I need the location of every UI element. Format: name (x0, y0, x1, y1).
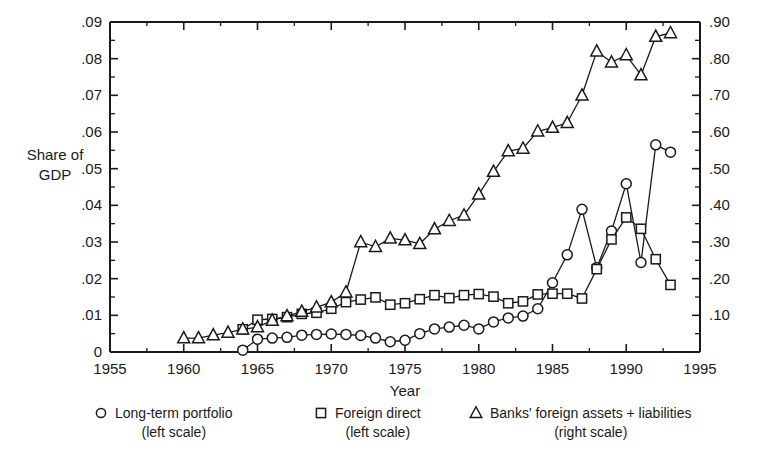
data-point-square (386, 300, 395, 309)
x-tick-label: 1965 (241, 360, 274, 377)
data-point-circle (577, 204, 587, 214)
data-point-circle (533, 304, 543, 314)
legend-marker-square (316, 408, 325, 417)
legend-label-primary: Long-term portfolio (115, 405, 233, 421)
data-point-square (504, 299, 513, 308)
data-point-circle (651, 140, 661, 150)
data-point-square (415, 295, 424, 304)
legend-label-primary: Banks' foreign assets + liabilities (490, 405, 692, 421)
data-point-square (445, 294, 454, 303)
data-point-square (666, 280, 675, 289)
data-point-circle (444, 322, 454, 332)
data-point-square (636, 224, 645, 233)
y-right-tick-label: .80 (709, 50, 730, 67)
y-axis-left-title-line2: GDP (39, 166, 72, 183)
y-left-tick-label: .04 (81, 196, 102, 213)
y-right-tick-label: .60 (709, 123, 730, 140)
y-axis-left-title-line1: Share of (27, 146, 85, 163)
data-point-square (577, 294, 586, 303)
y-left-tick-label: .08 (81, 50, 102, 67)
data-point-square (518, 297, 527, 306)
y-right-tick-label: .50 (709, 160, 730, 177)
data-point-circle (253, 334, 263, 344)
data-point-circle (341, 329, 351, 339)
y-right-tick-label: .40 (709, 196, 730, 213)
x-tick-label: 1995 (683, 360, 716, 377)
data-point-circle (238, 345, 248, 355)
x-tick-label: 1975 (388, 360, 421, 377)
y-left-tick-label: .01 (81, 306, 102, 323)
legend-label-secondary: (left scale) (141, 424, 206, 440)
legend-marker-circle (96, 408, 105, 417)
data-point-square (356, 295, 365, 304)
legend-label-secondary: (left scale) (346, 424, 411, 440)
data-point-square (548, 289, 557, 298)
x-axis-title: Year (390, 382, 420, 399)
y-left-tick-label: .06 (81, 123, 102, 140)
x-tick-label: 1985 (536, 360, 569, 377)
data-point-square (592, 265, 601, 274)
data-point-circle (385, 337, 395, 347)
x-tick-label: 1970 (315, 360, 348, 377)
chart-canvas: 195519601965197019751980198519901995 0.0… (0, 0, 758, 450)
data-point-square (651, 255, 660, 264)
x-tick-label: 1990 (610, 360, 643, 377)
y-left-tick-label: .09 (81, 13, 102, 30)
data-point-circle (312, 329, 322, 339)
data-point-circle (666, 147, 676, 157)
x-tick-label: 1955 (93, 360, 126, 377)
y-left-tick-label: .02 (81, 270, 102, 287)
y-right-tick-label: .10 (709, 306, 730, 323)
y-right-tick-label: .70 (709, 86, 730, 103)
data-point-circle (636, 258, 646, 268)
y-left-tick-label: .03 (81, 233, 102, 250)
data-point-square (563, 289, 572, 298)
data-point-circle (326, 329, 336, 339)
data-point-square (622, 213, 631, 222)
data-point-circle (621, 179, 631, 189)
y-right-tick-label: .90 (709, 13, 730, 30)
data-point-square (459, 291, 468, 300)
data-point-circle (474, 324, 484, 334)
y-left-tick-label: 0 (94, 343, 102, 360)
data-point-square (371, 293, 380, 302)
y-right-tick-label: .20 (709, 270, 730, 287)
data-point-circle (371, 333, 381, 343)
data-point-circle (267, 333, 277, 343)
data-point-square (341, 298, 350, 307)
y-left-tick-label: .07 (81, 86, 102, 103)
legend-label-secondary: (right scale) (554, 424, 627, 440)
data-point-square (533, 290, 542, 299)
y-right-tick-label: .30 (709, 233, 730, 250)
data-point-circle (459, 320, 469, 330)
y-left-tick-label: .05 (81, 160, 102, 177)
data-point-circle (400, 335, 410, 345)
data-point-circle (415, 329, 425, 339)
legend-label-primary: Foreign direct (335, 405, 421, 421)
x-tick-label: 1980 (462, 360, 495, 377)
data-point-square (489, 292, 498, 301)
data-point-circle (503, 313, 513, 323)
data-point-square (430, 291, 439, 300)
data-point-circle (430, 324, 440, 334)
data-point-circle (282, 332, 292, 342)
x-tick-label: 1960 (167, 360, 200, 377)
chart-figure: 195519601965197019751980198519901995 0.0… (0, 0, 758, 450)
data-point-circle (489, 317, 499, 327)
data-point-square (474, 289, 483, 298)
data-point-circle (518, 311, 528, 321)
data-point-square (400, 299, 409, 308)
data-point-circle (356, 331, 366, 341)
data-point-circle (562, 250, 572, 260)
data-point-circle (548, 278, 558, 288)
data-point-square (607, 235, 616, 244)
data-point-circle (297, 330, 307, 340)
